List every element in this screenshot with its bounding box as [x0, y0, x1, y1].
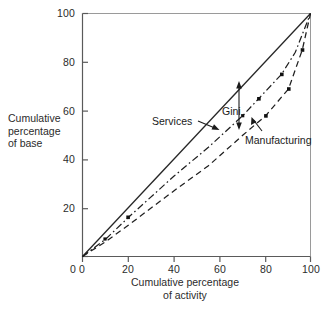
x-tick-label-20: 20	[122, 263, 134, 275]
lorenz-curve-figure: 100 80 60 40 20 0 0 20 40 60 80 100 Cumu…	[0, 0, 335, 309]
y-tick-label-100: 100	[57, 7, 75, 19]
y-tick-label-80: 80	[63, 56, 75, 68]
data-point-marker	[257, 97, 261, 101]
y-tick-label-0: 0	[70, 263, 76, 275]
data-point-marker	[103, 237, 106, 240]
x-axis-title-line1: Cumulative percentage	[120, 276, 250, 289]
y-axis-title-line1: Cumulative	[8, 112, 61, 125]
data-point-marker	[264, 114, 268, 118]
annotation-services: Services	[152, 115, 192, 127]
y-tick-label-20: 20	[63, 202, 75, 214]
x-tick-label-80: 80	[260, 263, 272, 275]
data-point-marker	[241, 114, 244, 117]
manufacturing-arrow-head	[251, 117, 256, 125]
x-tick-label-0: 0	[79, 263, 85, 275]
y-ticks	[83, 14, 89, 257]
annotation-manufacturing: Manufacturing	[245, 134, 312, 146]
y-tick-label-40: 40	[63, 153, 75, 165]
data-point-marker	[301, 48, 305, 52]
x-tick-label-40: 40	[168, 263, 180, 275]
x-axis-title-line2: of activity	[120, 289, 250, 302]
x-axis-title: Cumulative percentage of activity	[120, 276, 250, 301]
x-tick-label-60: 60	[214, 263, 226, 275]
annotation-gini: Gini	[222, 105, 241, 117]
y-axis-title-line3: of base	[8, 137, 61, 150]
data-point-marker	[287, 87, 291, 91]
y-axis-title: Cumulative percentage of base	[8, 112, 61, 150]
services-arrow-head	[212, 124, 220, 130]
x-tick-label-100: 100	[302, 263, 320, 275]
y-axis-title-line2: percentage	[8, 125, 61, 138]
x-ticks	[83, 257, 311, 263]
manufacturing-callout-arrow	[251, 117, 262, 131]
y-tick-label-60: 60	[63, 105, 75, 117]
data-point-marker	[126, 216, 130, 220]
data-point-marker	[280, 73, 284, 77]
series-manufacturing-markers	[264, 48, 304, 118]
gini-arrow-head-bottom	[236, 123, 242, 131]
gini-arrow-head-top	[236, 81, 242, 89]
